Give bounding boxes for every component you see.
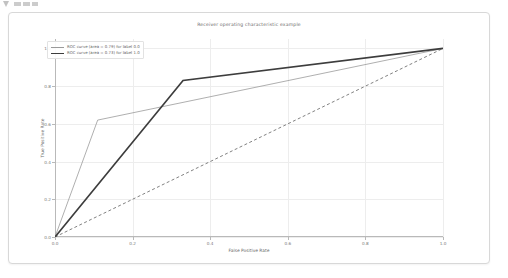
x-axis-label: False Positive Rate bbox=[55, 248, 443, 253]
plot-area: 0.00.20.40.60.81.00.00.20.40.60.81.0 ROC… bbox=[55, 39, 443, 237]
artifact-bar-3 bbox=[32, 2, 38, 6]
legend-item: ROC curve (area = 0.73) for label 1.0 bbox=[51, 50, 140, 56]
y-axis-label: True Positive Rate bbox=[40, 118, 45, 157]
legend-line-swatch bbox=[51, 53, 64, 54]
y-tick-label: 0.2 bbox=[44, 197, 51, 202]
artifact-bar-1 bbox=[14, 2, 21, 6]
roc-curve-label-0 bbox=[55, 48, 443, 237]
x-tick-label: 0.0 bbox=[52, 241, 59, 246]
page-edge-artifact bbox=[2, 1, 44, 10]
gridline-vertical bbox=[443, 39, 444, 237]
x-tick-label: 0.4 bbox=[207, 241, 214, 246]
y-tick-label: 0.0 bbox=[44, 235, 51, 240]
x-tick bbox=[55, 237, 56, 240]
chance-line bbox=[55, 48, 443, 237]
curves-layer bbox=[55, 39, 443, 237]
y-tick-label: 0.4 bbox=[44, 159, 51, 164]
x-tick bbox=[365, 237, 366, 240]
y-tick-label: 0.8 bbox=[44, 84, 51, 89]
x-tick-label: 0.6 bbox=[284, 241, 291, 246]
gridline-horizontal bbox=[55, 237, 443, 238]
artifact-bar-2 bbox=[23, 2, 30, 6]
x-tick bbox=[443, 237, 444, 240]
x-tick bbox=[288, 237, 289, 240]
roc-curve-label-1 bbox=[55, 48, 443, 237]
legend-line-swatch bbox=[51, 47, 64, 48]
legend-item-label: ROC curve (area = 0.73) for label 1.0 bbox=[67, 50, 140, 56]
roc-figure: Receiver operating characteristic exampl… bbox=[9, 13, 489, 263]
x-tick-label: 0.8 bbox=[362, 241, 369, 246]
chart-title: Receiver operating characteristic exampl… bbox=[9, 22, 489, 27]
x-tick-label: 1.0 bbox=[440, 241, 447, 246]
x-tick-label: 0.2 bbox=[129, 241, 136, 246]
chart-legend: ROC curve (area = 0.79) for label 0.0ROC… bbox=[47, 41, 144, 59]
figure-card: Receiver operating characteristic exampl… bbox=[8, 12, 490, 264]
y-tick-label: 0.6 bbox=[44, 121, 51, 126]
caret-glyph bbox=[3, 1, 9, 7]
y-tick bbox=[52, 237, 55, 238]
x-tick bbox=[210, 237, 211, 240]
x-tick bbox=[133, 237, 134, 240]
